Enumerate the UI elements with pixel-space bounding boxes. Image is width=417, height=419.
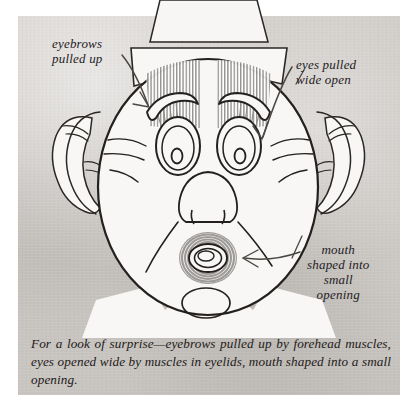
label-mouth-shaped-into-small-opening: mouth shaped into small opening: [307, 242, 370, 302]
right-pupil: [235, 149, 246, 164]
left-eye: [156, 117, 200, 175]
left-pupil: [172, 149, 183, 164]
label-eyes-pulled-wide-open: eyes pulled wide open: [296, 57, 356, 87]
label-eyebrows-pulled-up: eyebrows pulled up: [52, 36, 103, 66]
mouth: [179, 232, 237, 284]
right-eye: [217, 117, 261, 175]
figure-caption: For a look of surprise—eyebrows pulled u…: [31, 335, 391, 389]
illustration-page: eyebrows pulled up eyes pulled wide open…: [0, 0, 417, 419]
